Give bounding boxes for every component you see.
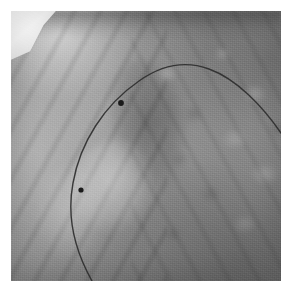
catheter-overlay [11,11,281,281]
catheter-path [71,65,281,281]
marker-distal-icon [78,187,83,192]
screenshot-root [0,0,291,292]
marker-proximal-icon [118,100,124,106]
radiograph-viewport[interactable] [11,11,281,281]
